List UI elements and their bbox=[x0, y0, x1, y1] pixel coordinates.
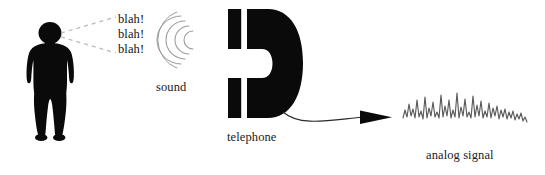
curved-arrow-icon bbox=[283, 111, 392, 125]
sound-label: sound bbox=[156, 80, 186, 95]
diagram-canvas: blah! blah! blah! sound telephone analog… bbox=[0, 0, 545, 175]
sound-wave-arcs-icon bbox=[157, 12, 193, 68]
analog-waveform-icon bbox=[403, 93, 527, 122]
speech-dashed-lines-icon bbox=[61, 17, 116, 53]
analog-signal-label: analog signal bbox=[426, 148, 494, 163]
speech-line-2: blah! bbox=[118, 27, 144, 42]
speech-line-3: blah! bbox=[118, 42, 144, 57]
speech-line-1: blah! bbox=[118, 12, 144, 27]
telephone-label: telephone bbox=[227, 130, 277, 145]
person-silhouette-icon bbox=[27, 22, 74, 141]
speech-text-block: blah! blah! blah! bbox=[118, 12, 144, 56]
telephone-handset-icon bbox=[228, 9, 303, 118]
